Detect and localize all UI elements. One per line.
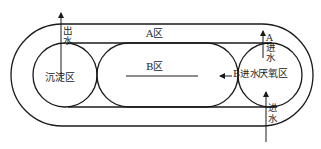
b-inlet-label: B进水 [233, 68, 260, 79]
a-zone-label: A区 [145, 28, 163, 39]
b-zone-label: B区 [146, 61, 163, 72]
b-zone-boundary [97, 43, 238, 107]
outlet-label-char2: 水 [63, 35, 73, 46]
settling-zone-label: 沉淀区 [45, 71, 75, 83]
a-inlet-label-char3: 水 [266, 52, 276, 63]
main-inlet-label-char1: 进 [268, 102, 278, 113]
main-inlet-label-char2: 水 [268, 113, 278, 124]
oxidation-ditch-diagram: A区 B区 沉淀区 厌氧区 出 水 A 进 水 B进水 进 水 [0, 0, 321, 149]
anaerobic-zone-label: 厌氧区 [258, 67, 288, 79]
